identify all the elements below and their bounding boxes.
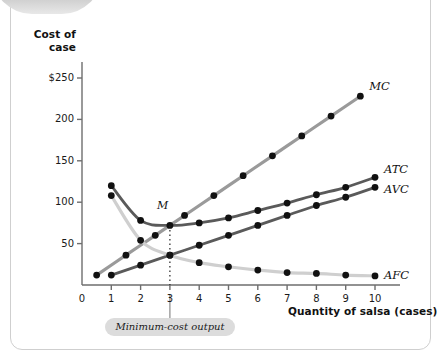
x-tick-label: 6 <box>244 293 272 304</box>
x-axis-title: Quantity of salsa (cases) <box>288 305 438 317</box>
y-tick-label: 100 <box>20 196 74 207</box>
data-point-mc <box>93 272 100 279</box>
point-m-label: M <box>157 199 168 212</box>
data-point-atc <box>342 184 349 191</box>
x-tick-label: 5 <box>215 293 243 304</box>
y-axis-title-line2: case <box>49 41 76 53</box>
x-tick-label: 7 <box>273 293 301 304</box>
data-point-atc <box>372 174 379 181</box>
data-point-avc <box>342 194 349 201</box>
data-point-avc <box>284 212 291 219</box>
data-point-mc <box>240 172 247 179</box>
data-point-afc <box>284 269 291 276</box>
data-point-atc <box>313 191 320 198</box>
curve-afc <box>111 196 375 276</box>
series-label-avc: AVC <box>384 182 409 196</box>
curve-mc <box>97 96 361 275</box>
minimum-cost-output-callout: Minimum-cost output <box>105 318 234 336</box>
data-point-afc <box>254 267 261 274</box>
data-point-mc <box>269 152 276 159</box>
series-label-atc: ATC <box>384 162 408 176</box>
data-point-avc <box>225 232 232 239</box>
x-tick-label: 2 <box>127 293 155 304</box>
y-tick-label: 200 <box>20 113 74 124</box>
data-point-atc <box>284 200 291 207</box>
data-point-atc <box>137 217 144 224</box>
y-axis-title-line1: Cost of <box>34 28 76 40</box>
x-tick-label: 4 <box>185 293 213 304</box>
x-tick-label: 10 <box>361 293 389 304</box>
data-point-atc <box>225 215 232 222</box>
data-point-avc <box>137 262 144 269</box>
data-point-atc <box>254 207 261 214</box>
data-point-afc <box>313 270 320 277</box>
data-point-mc <box>298 133 305 140</box>
data-point-mc <box>328 113 335 120</box>
data-point-afc <box>342 272 349 279</box>
y-tick-label: $250 <box>20 72 74 83</box>
data-point-avc <box>196 242 203 249</box>
series-label-afc: AFC <box>384 268 409 282</box>
data-point-avc <box>372 184 379 191</box>
x-tick-label: 0 <box>68 293 96 304</box>
data-point-afc <box>137 237 144 244</box>
x-tick-label: 8 <box>302 293 330 304</box>
data-point-afc <box>108 192 115 199</box>
data-point-mc <box>152 232 159 239</box>
data-point-mc <box>357 93 364 100</box>
data-point-avc <box>254 222 261 229</box>
y-tick-label: 50 <box>20 238 74 249</box>
data-point-afc <box>372 272 379 279</box>
curve-avc <box>111 187 375 275</box>
data-point-atc <box>108 182 115 189</box>
data-point-mc <box>210 192 217 199</box>
data-point-afc <box>225 263 232 270</box>
y-tick-label: 150 <box>20 155 74 166</box>
x-tick-label: 3 <box>156 293 184 304</box>
y-axis-title: Cost of case <box>18 28 76 54</box>
data-point-mc <box>123 252 130 259</box>
data-point-atc <box>196 220 203 227</box>
data-point-avc <box>313 202 320 209</box>
data-point-afc <box>196 259 203 266</box>
figure-card: Cost of case Quantity of salsa (cases) 5… <box>0 0 443 362</box>
data-point-avc <box>108 272 115 279</box>
series-label-mc: MC <box>369 79 390 93</box>
x-tick-label: 9 <box>332 293 360 304</box>
x-tick-label: 1 <box>97 293 125 304</box>
data-point-mc <box>181 212 188 219</box>
